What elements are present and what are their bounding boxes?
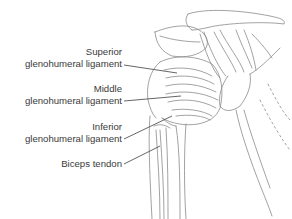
label-superior-line2: glenohumeral ligament: [25, 58, 122, 70]
shoulder-anatomy-illustration: [0, 0, 292, 219]
label-middle-glenohumeral-ligament: Middle glenohumeral ligament: [25, 83, 122, 106]
label-inferior-line1: Inferior: [25, 121, 122, 133]
label-biceps-line1: Biceps tendon: [61, 158, 122, 170]
shoulder-diagram: Superior glenohumeral ligament Middle gl…: [0, 0, 292, 219]
label-superior-glenohumeral-ligament: Superior glenohumeral ligament: [25, 46, 122, 69]
label-inferior-line2: glenohumeral ligament: [25, 133, 122, 145]
label-middle-line1: Middle: [25, 83, 122, 95]
label-biceps-tendon: Biceps tendon: [61, 158, 122, 170]
label-middle-line2: glenohumeral ligament: [25, 95, 122, 107]
label-superior-line1: Superior: [25, 46, 122, 58]
label-inferior-glenohumeral-ligament: Inferior glenohumeral ligament: [25, 121, 122, 144]
